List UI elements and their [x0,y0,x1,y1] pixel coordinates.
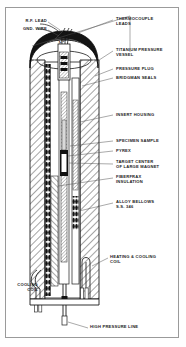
label-target-center: TARGET CENTER OF LARGE MAGNET [116,160,159,170]
bellows-convolutions [72,196,78,230]
fiberfrax-insulation-band [51,176,58,286]
label-high-pressure-line: HIGH PRESSURE LINE [90,325,138,330]
titanium-vessel-wall-left [30,60,45,299]
specimen-pyrex-column [59,78,69,284]
cooling-coil-turns-left [45,64,50,296]
label-rf-lead: R.F. LEAD [0,19,47,24]
leader-line-bottom [68,322,88,328]
vessel-assembly [30,16,130,328]
label-insert-housing: INSERT HOUSING [116,113,154,118]
label-pyrex: PYREX [116,149,131,154]
label-gnd-wire: GND. WIRE [0,27,47,32]
label-fiberfrax-insulation: FIBERFRAX INSULATION [116,175,143,185]
label-specimen-sample: SPECIMEN SAMPLE [116,139,159,144]
label-heating-cooling-coil: HEATING & COOLING COIL [110,255,156,265]
titanium-vessel-wall-right [80,60,99,299]
label-thermocouple-leads: THERMOCOUPLE LEADS [116,17,153,27]
label-pressure-plug: PRESSURE PLUG [116,67,154,72]
label-cooling-coil: COOLING COIL [0,283,38,293]
label-alloy-bellows: ALLOY BELLOWS S.S. 346 [116,200,154,210]
bottom-end-cap [30,299,99,305]
technical-drawing-figure: 4.00 O.D. R.F. LEAD GND. WIRE COOLING CO… [0,0,186,347]
label-titanium-pressure-vessel: TITANIUM PRESSURE VESSEL [116,48,163,58]
label-bridgman-seals: BRIDGMAN SEALS [116,76,156,81]
alloy-bellows-column [72,78,79,284]
